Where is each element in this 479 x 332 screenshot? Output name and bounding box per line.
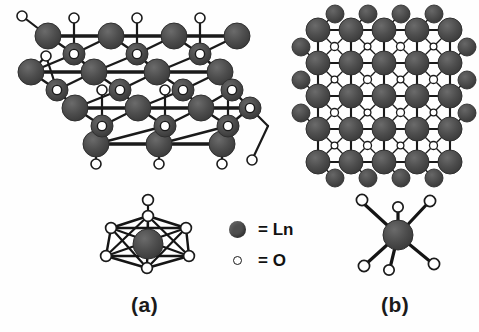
legend-item-o: = O	[222, 245, 337, 276]
crystal-structure-figure: = Ln = O (a) (b)	[0, 0, 479, 332]
panel-b-coordination-octahedron	[356, 194, 439, 275]
panel-b-lattice	[292, 5, 476, 187]
central-lanthanide-atom	[383, 220, 413, 250]
panel-a-lattice	[17, 11, 268, 169]
panel-label-b: (b)	[381, 293, 409, 317]
central-lanthanide-atom	[133, 229, 163, 259]
legend-item-ln: = Ln	[222, 214, 337, 245]
open-circle-icon	[222, 256, 252, 265]
panel-a-coordination-polyhedron	[101, 195, 195, 274]
panel-a-ln-o-overlap-atoms	[46, 43, 261, 137]
panel-label-a: (a)	[131, 293, 158, 317]
legend: = Ln = O	[222, 214, 337, 276]
legend-label-ln: = Ln	[258, 220, 293, 240]
structure-canvas	[0, 0, 479, 332]
filled-circle-icon	[222, 221, 252, 238]
legend-label-o: = O	[258, 251, 286, 271]
